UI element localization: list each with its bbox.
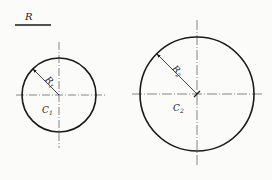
c1-name-label: C1 — [42, 105, 53, 116]
reference-length-label: R — [24, 11, 33, 22]
c2-name-label: C2 — [173, 103, 184, 114]
c1-radius-label: R1 — [42, 74, 58, 90]
circle-c2-group: R2 C2 — [132, 20, 264, 166]
diagram-canvas: R R1 C1 R2 C2 — [0, 0, 272, 180]
circle-c1-group: R1 C1 — [16, 42, 107, 148]
reference-length-r: R — [15, 11, 51, 25]
c2-radius-label: R2 — [169, 63, 185, 79]
